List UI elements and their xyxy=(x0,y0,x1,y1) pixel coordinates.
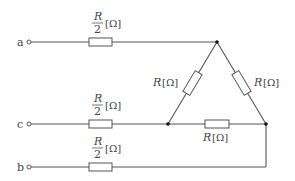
unit-label: [Ω] xyxy=(263,77,279,88)
resistor-delta-right xyxy=(232,71,251,96)
resistor-a-label: R 2 [Ω] xyxy=(92,10,121,36)
resistor-b-label: R 2 [Ω] xyxy=(92,135,121,161)
resistor-delta-right-label: R [Ω] xyxy=(253,76,279,89)
resistor-a xyxy=(89,38,112,46)
terminal-a xyxy=(27,40,31,44)
terminal-c-label: c xyxy=(17,118,23,131)
node-top xyxy=(215,40,219,44)
unit-label: [Ω] xyxy=(105,100,121,111)
fraction-numerator: R xyxy=(93,10,102,23)
fraction-numerator: R xyxy=(93,135,102,148)
resistor-symbol: R xyxy=(202,131,211,144)
terminal-a-label: a xyxy=(17,36,24,49)
unit-label: [Ω] xyxy=(162,77,178,88)
fraction-denominator: 2 xyxy=(94,23,101,36)
resistor-delta-bottom xyxy=(205,120,229,128)
resistor-symbol: R xyxy=(152,76,161,89)
fraction-numerator: R xyxy=(93,92,102,105)
resistor-symbol: R xyxy=(253,76,262,89)
resistor-c-label: R 2 [Ω] xyxy=(92,92,121,118)
unit-label: [Ω] xyxy=(105,143,121,154)
terminal-b xyxy=(27,165,31,169)
unit-label: [Ω] xyxy=(212,132,228,143)
fraction-denominator: 2 xyxy=(94,148,101,161)
resistor-delta-left-label: R [Ω] xyxy=(152,76,178,89)
resistor-b xyxy=(89,163,112,171)
terminal-c xyxy=(27,122,31,126)
node-bottom-left xyxy=(166,122,170,126)
circuit-diagram: a c b R 2 [Ω] R 2 [Ω] R 2 [Ω] R [Ω] R [Ω… xyxy=(0,0,295,181)
fraction-denominator: 2 xyxy=(94,105,101,118)
resistor-c xyxy=(89,120,112,128)
node-bottom-right xyxy=(264,122,268,126)
resistor-delta-bottom-label: R [Ω] xyxy=(202,131,228,144)
terminal-b-label: b xyxy=(17,161,24,174)
resistor-delta-left xyxy=(183,71,202,96)
unit-label: [Ω] xyxy=(105,18,121,29)
